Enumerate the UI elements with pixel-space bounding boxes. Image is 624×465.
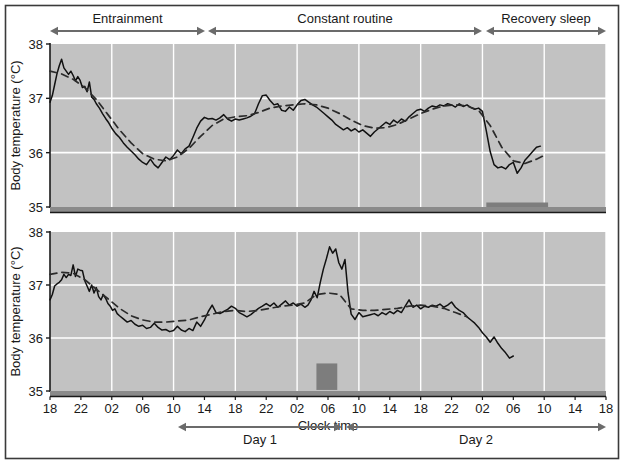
y-tick-label-bottom-37: 37 [29,278,43,293]
x-tick-label-10: 10 [352,401,366,416]
body-temperature-figure: EntrainmentConstant routineRecovery slee… [0,0,624,465]
y-tick-label-top-36: 36 [29,146,43,161]
x-tick-label-13: 22 [444,401,458,416]
y-tick-label-top-35: 35 [29,200,43,215]
x-tick-label-18: 18 [599,401,613,416]
x-tick-label-14: 02 [475,401,489,416]
y-axis-title-top: Body temperature (°C) [8,60,23,190]
y-tick-label-top-38: 38 [29,37,43,52]
phase-label-constant-routine: Constant routine [297,11,392,26]
phase-label-recovery-sleep: Recovery sleep [501,11,591,26]
day-label-day-2: Day 2 [459,432,493,447]
x-tick-label-2: 02 [105,401,119,416]
x-tick-label-5: 14 [197,401,211,416]
x-tick-label-3: 06 [135,401,149,416]
y-axis-title-bottom: Body temperature (°C) [8,246,23,376]
bottom-axis-strip-top [50,207,606,212]
nap-block-bottom-0 [316,363,337,390]
x-tick-label-8: 02 [290,401,304,416]
x-tick-label-15: 06 [506,401,520,416]
y-tick-label-bottom-35: 35 [29,384,43,399]
x-tick-label-6: 18 [228,401,242,416]
sleep-bar-top-0 [486,203,548,208]
x-tick-label-9: 06 [321,401,335,416]
x-tick-label-7: 22 [259,401,273,416]
y-tick-label-top-37: 37 [29,91,43,106]
bottom-axis-strip-bottom [50,391,606,396]
x-tick-label-17: 14 [568,401,582,416]
day-label-day-1: Day 1 [243,432,277,447]
x-tick-label-11: 14 [383,401,397,416]
x-tick-label-1: 22 [74,401,88,416]
y-tick-label-bottom-36: 36 [29,331,43,346]
x-tick-label-4: 10 [166,401,180,416]
figure-container: EntrainmentConstant routineRecovery slee… [0,0,624,465]
x-tick-label-0: 18 [43,401,57,416]
x-tick-label-16: 10 [537,401,551,416]
plot-background-top [50,44,606,207]
y-tick-label-bottom-38: 38 [29,225,43,240]
x-tick-label-12: 18 [413,401,427,416]
phase-label-entrainment: Entrainment [92,11,162,26]
